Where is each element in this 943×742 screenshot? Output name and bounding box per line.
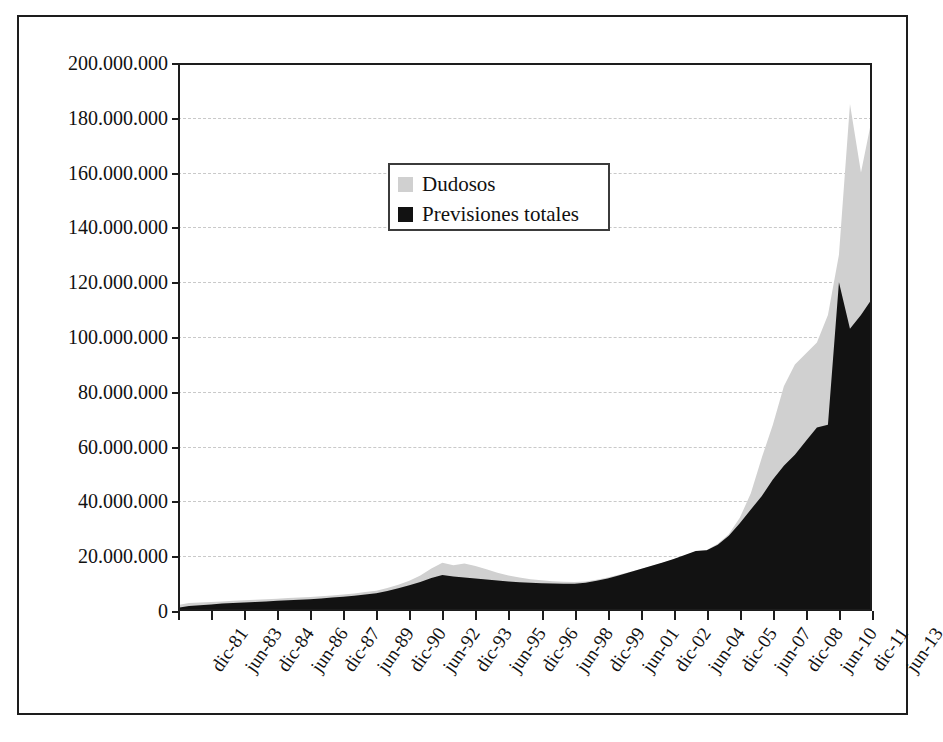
chart-area: 200.000.000180.000.000160.000.000140.000… [0, 0, 943, 742]
y-tick-label: 100.000.000 [68, 327, 168, 347]
x-tick-mark [575, 611, 577, 620]
y-tick-label: 40.000.000 [78, 491, 168, 511]
x-tick-mark [707, 611, 709, 620]
x-tick-mark [839, 611, 841, 620]
y-tick-label: 200.000.000 [68, 53, 168, 73]
legend-label-previsiones: Previsiones totales [422, 203, 579, 225]
x-tick-mark [277, 611, 279, 620]
legend-item-dudosos: Dudosos [398, 169, 600, 199]
x-tick-mark [872, 611, 874, 620]
y-tick-label: 140.000.000 [68, 217, 168, 237]
y-axis-tick-labels: 200.000.000180.000.000160.000.000140.000… [48, 63, 168, 611]
x-tick-mark [740, 611, 742, 620]
x-tick-mark [178, 611, 180, 620]
plot-frame-bottom [178, 609, 872, 611]
legend-label-dudosos: Dudosos [422, 173, 496, 195]
x-tick-mark [409, 611, 411, 620]
x-tick-mark [244, 611, 246, 620]
previsiones-swatch [398, 207, 413, 222]
x-tick-mark [376, 611, 378, 620]
x-tick-mark [608, 611, 610, 620]
x-tick-mark [542, 611, 544, 620]
plot-frame-left [178, 63, 180, 611]
x-tick-mark [674, 611, 676, 620]
x-tick-mark [343, 611, 345, 620]
dudosos-swatch [398, 177, 413, 192]
x-tick-mark [641, 611, 643, 620]
series-plot [178, 63, 872, 611]
x-tick-label: jun-98 [572, 624, 617, 676]
plot-frame-right [870, 63, 872, 611]
x-tick-mark [773, 611, 775, 620]
x-tick-mark [442, 611, 444, 620]
x-tick-mark [806, 611, 808, 620]
plot-frame-top [178, 63, 872, 65]
y-tick-label: 20.000.000 [78, 546, 168, 566]
y-tick-label: 180.000.000 [68, 108, 168, 128]
y-tick-label: 60.000.000 [78, 437, 168, 457]
x-tick-mark [310, 611, 312, 620]
x-tick-mark [508, 611, 510, 620]
y-tick-label: 120.000.000 [68, 272, 168, 292]
plot-box: Dudosos Previsiones totales [178, 63, 872, 611]
x-tick-mark [475, 611, 477, 620]
legend-item-previsiones: Previsiones totales [398, 199, 600, 229]
y-tick-label: 80.000.000 [78, 382, 168, 402]
chart-legend: Dudosos Previsiones totales [388, 163, 610, 231]
y-tick-label: 160.000.000 [68, 163, 168, 183]
x-tick-mark [211, 611, 213, 620]
y-tick-label: 0 [158, 601, 168, 621]
